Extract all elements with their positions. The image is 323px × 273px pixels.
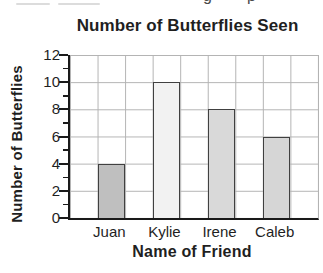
y-tick-label-12: 12 <box>28 47 60 63</box>
y-major-tick <box>59 136 68 138</box>
x-tick-label-kylie: Kylie <box>137 223 192 240</box>
bar-irene <box>208 109 236 218</box>
y-major-tick <box>59 108 68 110</box>
y-major-tick <box>59 163 68 165</box>
y-tick-label-0: 0 <box>28 210 60 226</box>
y-tick-label-6: 6 <box>28 129 60 145</box>
x-tick-label-caleb: Caleb <box>247 223 302 240</box>
y-major-tick <box>59 81 68 83</box>
bar-juan <box>98 164 126 218</box>
cropped-text-smudge <box>58 3 100 5</box>
y-major-tick <box>59 190 68 192</box>
cropped-letter-descender: p <box>247 0 256 5</box>
bar-caleb <box>263 137 291 219</box>
chart-title: Number of Butterflies Seen <box>52 16 323 36</box>
y-tick-label-2: 2 <box>28 183 60 199</box>
x-axis-tick-labels: JuanKylieIreneCaleb <box>68 223 316 241</box>
x-tick-label-juan: Juan <box>82 223 137 240</box>
x-axis-label: Name of Friend <box>68 243 316 261</box>
y-axis-label: Number of Butterflies <box>8 48 28 240</box>
bar-kylie <box>153 82 181 218</box>
cropped-text-line: g p <box>0 0 323 9</box>
y-tick-label-10: 10 <box>28 74 60 90</box>
y-tick-label-4: 4 <box>28 156 60 172</box>
y-major-tick <box>59 217 68 219</box>
plot-area <box>68 55 319 220</box>
worksheet-bar-chart: g p Number of Butterflies Seen Number of… <box>0 0 323 273</box>
y-axis-tick-marks <box>59 55 68 220</box>
cropped-letter-descender: g <box>203 0 212 5</box>
y-axis-tick-labels: 024681012 <box>28 55 60 220</box>
x-tick-label-irene: Irene <box>192 223 247 240</box>
y-tick-label-8: 8 <box>28 101 60 117</box>
y-major-tick <box>59 54 68 56</box>
cropped-text-smudge <box>16 3 50 5</box>
